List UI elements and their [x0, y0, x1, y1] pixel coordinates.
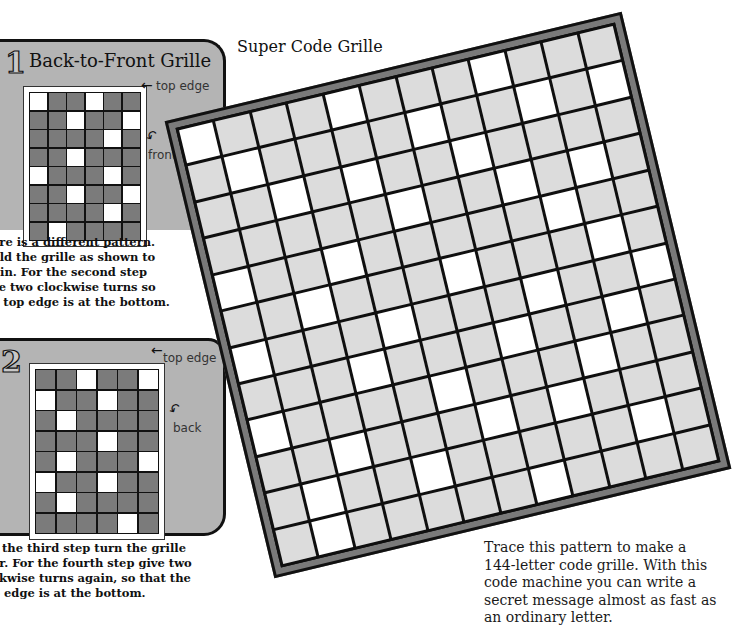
closed-cell	[118, 432, 137, 451]
closed-cell	[98, 493, 117, 512]
closed-cell	[98, 370, 117, 389]
open-cell	[249, 413, 290, 455]
closed-cell	[658, 354, 700, 395]
closed-cell	[285, 405, 327, 447]
closed-cell	[397, 70, 438, 111]
open-cell	[123, 186, 140, 203]
closed-cell	[188, 159, 229, 201]
closed-cell	[559, 262, 600, 303]
closed-cell	[413, 297, 455, 338]
open-cell	[412, 451, 454, 493]
side-label: back	[173, 421, 202, 435]
open-cell	[387, 188, 429, 229]
closed-cell	[396, 224, 438, 266]
caption-step-2: r the third step turn the grille er. For…	[0, 541, 192, 601]
open-cell	[323, 242, 364, 284]
closed-cell	[361, 79, 403, 120]
open-cell	[67, 112, 84, 129]
closed-cell	[36, 370, 55, 389]
closed-cell	[118, 452, 137, 471]
closed-cell	[275, 522, 316, 564]
open-cell	[30, 93, 47, 110]
closed-cell	[533, 153, 574, 194]
open-cell	[139, 452, 158, 471]
closed-cell	[440, 406, 482, 447]
open-cell	[296, 287, 338, 329]
closed-cell	[118, 370, 137, 389]
closed-cell	[424, 179, 465, 220]
closed-cell	[98, 514, 117, 533]
closed-cell	[104, 93, 121, 110]
closed-cell	[278, 214, 320, 255]
closed-cell	[118, 473, 137, 492]
small-grille-back	[29, 363, 165, 540]
closed-cell	[86, 167, 103, 184]
open-cell	[476, 397, 517, 438]
closed-cell	[467, 361, 508, 403]
closed-cell	[405, 260, 447, 302]
closed-cell	[640, 281, 682, 323]
closed-cell	[30, 186, 47, 203]
closed-cell	[258, 450, 299, 491]
open-cell	[406, 106, 447, 148]
closed-cell	[139, 514, 158, 533]
closed-cell	[49, 204, 66, 221]
closed-cell	[422, 333, 464, 375]
closed-cell	[77, 452, 96, 471]
open-cell	[104, 167, 121, 184]
closed-cell	[443, 97, 485, 139]
closed-cell	[450, 288, 491, 329]
open-cell	[604, 290, 646, 332]
open-cell	[224, 150, 266, 192]
closed-cell	[514, 234, 556, 276]
closed-cell	[521, 425, 563, 467]
closed-cell	[118, 493, 137, 512]
closed-cell	[49, 130, 66, 147]
closed-cell	[434, 61, 476, 102]
closed-cell	[384, 496, 425, 538]
closed-cell	[86, 149, 103, 166]
open-cell	[523, 271, 565, 312]
open-cell	[303, 477, 345, 519]
closed-cell	[448, 442, 490, 484]
closed-cell	[86, 130, 103, 147]
open-cell	[569, 144, 611, 185]
closed-cell	[77, 432, 96, 451]
closed-cell	[77, 514, 96, 533]
closed-cell	[457, 479, 499, 521]
closed-cell	[86, 112, 103, 129]
closed-cell	[540, 343, 582, 385]
closed-cell	[667, 390, 709, 432]
top-edge-label: top edge	[156, 79, 209, 93]
panel-step-2: 2 ← top edge ↶ back	[0, 338, 226, 536]
closed-cell	[252, 105, 294, 146]
open-cell	[104, 130, 121, 147]
closed-cell	[370, 115, 412, 157]
closed-cell	[376, 460, 417, 502]
closed-cell	[288, 96, 329, 137]
open-cell	[312, 514, 354, 556]
closed-cell	[49, 112, 66, 129]
closed-cell	[98, 411, 117, 430]
closed-cell	[623, 208, 665, 250]
closed-cell	[139, 432, 158, 451]
closed-cell	[322, 396, 364, 438]
step-number-1: 1	[5, 48, 26, 78]
open-cell	[495, 316, 537, 358]
closed-cell	[36, 452, 55, 471]
closed-cell	[197, 195, 238, 237]
closed-cell	[139, 391, 158, 410]
closed-cell	[77, 493, 96, 512]
closed-cell	[314, 205, 355, 246]
closed-cell	[49, 186, 66, 203]
open-cell	[630, 399, 672, 441]
closed-cell	[512, 388, 554, 429]
closed-cell	[123, 93, 140, 110]
closed-cell	[277, 368, 319, 410]
closed-cell	[294, 441, 336, 482]
grille-cells	[175, 22, 720, 567]
closed-cell	[306, 169, 347, 211]
open-cell	[441, 252, 482, 294]
closed-cell	[36, 493, 55, 512]
open-cell	[98, 432, 117, 451]
